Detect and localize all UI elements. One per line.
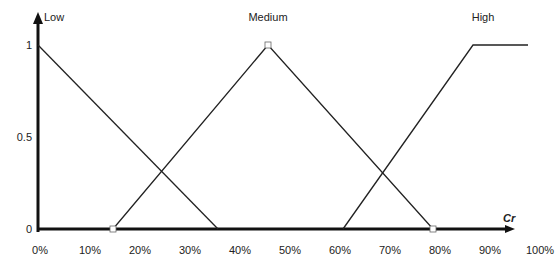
x-tick-label: 100% [526,244,554,256]
x-tick-label: 0% [32,244,48,256]
y-tick-label: 0.5 [17,131,32,143]
x-axis-label: Cr [503,212,516,224]
series-line-medium [113,45,433,229]
series-label-medium: Medium [248,11,287,23]
x-tick-label: 50% [279,244,301,256]
series-label-high: High [472,11,495,23]
x-tick-label: 10% [79,244,101,256]
x-axis-arrow-icon [505,225,515,233]
x-tick-label: 70% [379,244,401,256]
square-marker-icon [430,226,436,232]
x-tick-label: 20% [129,244,151,256]
x-tick-label: 60% [329,244,351,256]
x-tick-label: 80% [429,244,451,256]
x-tick-label: 40% [229,244,251,256]
square-marker-icon [110,226,116,232]
series-line-high [343,45,528,229]
y-tick-label: 0 [26,223,32,235]
y-tick-label: 1 [26,39,32,51]
x-tick-label: 90% [479,244,501,256]
square-marker-icon [265,42,271,48]
y-axis-arrow-icon [33,12,43,24]
series-label-low: Low [44,11,64,23]
membership-function-chart: Cr0%10%20%30%40%50%60%70%80%90%100%00.51… [0,0,556,263]
x-tick-label: 30% [179,244,201,256]
